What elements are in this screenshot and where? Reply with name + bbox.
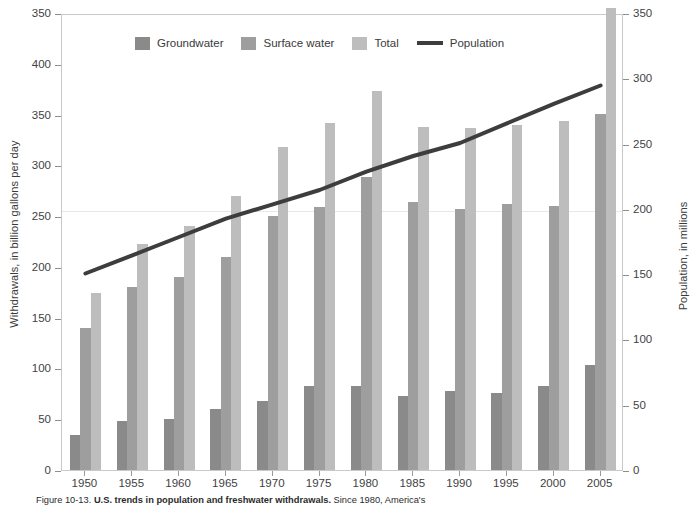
y-axis-right-tick-label: 0 (633, 465, 673, 477)
bar-groundwater-1980 (351, 386, 361, 470)
legend-line-marker (417, 41, 443, 45)
bar-surface-water-2000 (549, 206, 559, 470)
y-axis-left-tick-label: 0 (11, 465, 51, 477)
bar-surface-water-1995 (502, 204, 512, 470)
y-axis-right-tick (623, 14, 629, 15)
bar-groundwater-1970 (257, 401, 267, 470)
bar-groundwater-1975 (304, 386, 314, 470)
gridline (62, 211, 622, 212)
plot-inner (62, 15, 622, 470)
y-axis-right-tick-label: 350 (633, 8, 673, 20)
bar-total-1955 (137, 244, 147, 470)
x-axis-tick (600, 471, 601, 476)
bar-surface-water-1990 (455, 209, 465, 470)
y-axis-right-tick-label: 50 (633, 400, 673, 412)
bar-total-1975 (325, 123, 335, 470)
y-axis-right-tick (623, 340, 629, 341)
bar-groundwater-1990 (445, 391, 455, 470)
bar-total-2005 (606, 8, 616, 470)
bar-total-1985 (418, 127, 428, 470)
x-axis-tick (84, 471, 85, 476)
bar-groundwater-1950 (70, 435, 80, 470)
y-axis-right-tick-label: 250 (633, 139, 673, 151)
bar-surface-water-1955 (127, 287, 137, 470)
figure-container: Withdrawals, in billion gallons per day … (0, 0, 690, 507)
legend-item: Surface water (241, 37, 334, 50)
x-axis-tick (365, 471, 366, 476)
bar-total-1970 (278, 147, 288, 470)
bar-surface-water-1980 (361, 177, 371, 470)
bar-groundwater-1955 (117, 421, 127, 470)
x-axis-tick-label: 1995 (483, 478, 529, 490)
y-axis-right-tick-label: 200 (633, 204, 673, 216)
legend-item: Total (352, 37, 398, 50)
bar-surface-water-1975 (314, 207, 324, 470)
bar-total-1980 (372, 91, 382, 470)
y-axis-right-tick (623, 79, 629, 80)
x-axis-tick (272, 471, 273, 476)
x-axis-tick-label: 1960 (155, 478, 201, 490)
y-axis-right-tick-label: 150 (633, 269, 673, 281)
bar-total-1960 (184, 226, 194, 470)
y-axis-right-tick (623, 210, 629, 211)
bar-surface-water-1965 (221, 257, 231, 470)
y-axis-right-tick (623, 275, 629, 276)
y-axis-left-tick-label: 100 (11, 363, 51, 375)
bar-total-1990 (465, 128, 475, 470)
x-axis-tick-label: 1950 (61, 478, 107, 490)
bar-total-1965 (231, 196, 241, 470)
bar-surface-water-1950 (80, 328, 90, 470)
bar-surface-water-1970 (268, 216, 278, 470)
y-axis-left-tick-label: 200 (11, 262, 51, 274)
plot-area: GroundwaterSurface waterTotalPopulation (61, 14, 623, 471)
x-axis-tick-label: 1955 (108, 478, 154, 490)
chart-legend: GroundwaterSurface waterTotalPopulation (135, 35, 522, 51)
x-axis-tick-label: 1975 (296, 478, 342, 490)
y-axis-right-title: Population, in millions (677, 156, 689, 356)
bar-groundwater-1995 (491, 393, 501, 470)
caption-rest: Since 1980, America's (334, 495, 426, 505)
y-axis-right-tick (623, 406, 629, 407)
legend-label: Total (374, 37, 398, 49)
y-axis-left-tick-label: 150 (11, 313, 51, 325)
y-axis-left-tick-label: 350 (11, 110, 51, 122)
x-axis-tick (412, 471, 413, 476)
x-axis-tick (319, 471, 320, 476)
y-axis-left-tick-label: 400 (11, 59, 51, 71)
x-axis-tick-label: 2000 (530, 478, 576, 490)
x-axis-tick-label: 1990 (436, 478, 482, 490)
bar-total-1950 (91, 293, 101, 470)
bar-surface-water-1985 (408, 202, 418, 470)
legend-swatch (135, 37, 150, 50)
bar-groundwater-1985 (398, 396, 408, 470)
bar-total-1995 (512, 125, 522, 470)
legend-label: Population (450, 37, 504, 49)
x-axis-tick (506, 471, 507, 476)
bar-total-2000 (559, 121, 569, 470)
bar-surface-water-1960 (174, 277, 184, 470)
figure-caption: Figure 10-13. U.S. trends in population … (36, 495, 686, 507)
bar-surface-water-2005 (595, 114, 605, 470)
y-axis-left-tick-label: 350 (11, 8, 51, 20)
legend-item: Groundwater (135, 37, 223, 50)
x-axis-tick (131, 471, 132, 476)
bar-groundwater-1965 (210, 409, 220, 470)
x-axis-tick-label: 1985 (389, 478, 435, 490)
caption-title: U.S. trends in population and freshwater… (94, 495, 331, 505)
y-axis-left-tick-label: 50 (11, 414, 51, 426)
bar-groundwater-1960 (164, 419, 174, 470)
bar-groundwater-2000 (538, 386, 548, 470)
x-axis-tick (225, 471, 226, 476)
legend-swatch (241, 37, 256, 50)
y-axis-left-tick-label: 250 (11, 211, 51, 223)
caption-prefix: Figure 10-13. (36, 495, 91, 505)
bar-groundwater-2005 (585, 365, 595, 470)
legend-swatch (352, 37, 367, 50)
legend-item: Population (417, 37, 504, 49)
x-axis-tick-label: 1965 (202, 478, 248, 490)
legend-label: Groundwater (157, 37, 223, 49)
y-axis-right-tick (623, 145, 629, 146)
y-axis-left-tick-label: 300 (11, 160, 51, 172)
x-axis-tick (178, 471, 179, 476)
y-axis-right-tick-label: 300 (633, 73, 673, 85)
